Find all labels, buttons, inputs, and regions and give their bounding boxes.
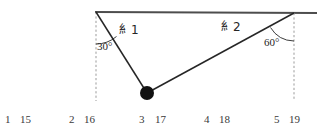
number-cell: 4 [204, 112, 210, 126]
angle-label-right: 60° [264, 37, 279, 48]
number-cell: 3 [139, 112, 145, 126]
ceiling-line [95, 12, 317, 13]
number-cell: 1 [5, 112, 11, 126]
number-cell: 17 [155, 112, 166, 126]
string-1-label: 糹1 [119, 24, 139, 36]
number-cell: 16 [84, 112, 95, 126]
number-cell: 2 [69, 112, 75, 126]
number-row: 115216317418519 [0, 112, 317, 132]
suspended-mass [140, 86, 154, 100]
number-cell: 5 [274, 112, 280, 126]
angle-label-left: 30° [97, 41, 112, 52]
number-cell: 15 [20, 112, 31, 126]
physics-figure: 30° 60° 糹1 糹2 115216317418519 [0, 0, 317, 135]
string-2-label: 糹2 [221, 21, 241, 33]
number-cell: 19 [289, 112, 300, 126]
number-cell: 18 [219, 112, 230, 126]
